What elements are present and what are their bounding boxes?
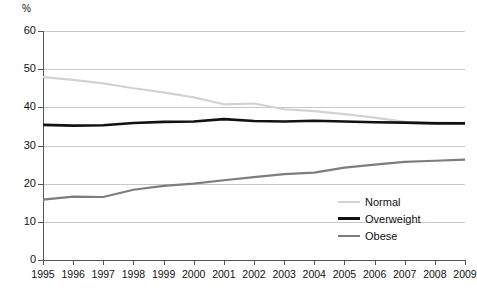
- x-axis-tick-label: 2006: [363, 268, 386, 280]
- x-axis-tick-mark: [435, 261, 436, 265]
- x-axis-tick-label: 1997: [92, 268, 115, 280]
- y-axis-tick-label: 10: [2, 215, 36, 227]
- y-axis-tick-label: 50: [2, 62, 36, 74]
- x-axis-tick-mark: [164, 261, 165, 265]
- x-axis-tick-mark: [314, 261, 315, 265]
- legend-item-overweight[interactable]: Overweight: [338, 210, 421, 227]
- x-axis-tick-mark: [375, 261, 376, 265]
- x-axis-tick-label: 1995: [31, 268, 54, 280]
- series-line-overweight: [43, 119, 465, 125]
- y-axis-unit-label: %: [22, 3, 31, 14]
- legend-label: Obese: [365, 230, 397, 242]
- x-axis-tick-label: 1996: [61, 268, 84, 280]
- x-axis-tick-mark: [103, 261, 104, 265]
- x-axis-tick-label: 2008: [423, 268, 446, 280]
- x-axis-tick-label: 2009: [453, 268, 476, 280]
- legend-label: Normal: [365, 196, 400, 208]
- y-axis-tick-label: 0: [2, 253, 36, 265]
- x-axis-tick-mark: [405, 261, 406, 265]
- series-line-normal: [43, 77, 465, 123]
- x-axis-tick-mark: [465, 261, 466, 265]
- x-axis-tick-label: 2000: [182, 268, 205, 280]
- x-axis-tick-mark: [43, 261, 44, 265]
- y-axis-tick-label: 60: [2, 24, 36, 36]
- x-axis-tick-label: 2005: [333, 268, 356, 280]
- legend-swatch-icon: [338, 217, 360, 220]
- x-axis-tick-mark: [224, 261, 225, 265]
- x-axis-tick-mark: [73, 261, 74, 265]
- y-axis-tick-label: 30: [2, 139, 36, 151]
- x-axis-tick-mark: [254, 261, 255, 265]
- y-axis-tick-label: 40: [2, 100, 36, 112]
- x-axis-tick-label: 2007: [393, 268, 416, 280]
- x-axis-tick-label: 1999: [152, 268, 175, 280]
- chart-legend: NormalOverweightObese: [338, 193, 421, 244]
- legend-swatch-icon: [338, 235, 360, 237]
- legend-label: Overweight: [365, 213, 421, 225]
- y-axis-tick-label: 20: [2, 177, 36, 189]
- x-axis-tick-mark: [284, 261, 285, 265]
- x-axis-tick-label: 2004: [303, 268, 326, 280]
- legend-item-normal[interactable]: Normal: [338, 193, 421, 210]
- legend-item-obese[interactable]: Obese: [338, 227, 421, 244]
- x-axis-tick-label: 2003: [272, 268, 295, 280]
- x-axis-tick-label: 1998: [122, 268, 145, 280]
- x-axis-tick-mark: [344, 261, 345, 265]
- x-axis-tick-mark: [133, 261, 134, 265]
- x-axis-tick-label: 2001: [212, 268, 235, 280]
- x-axis-tick-label: 2002: [242, 268, 265, 280]
- x-axis-tick-mark: [194, 261, 195, 265]
- legend-swatch-icon: [338, 201, 360, 203]
